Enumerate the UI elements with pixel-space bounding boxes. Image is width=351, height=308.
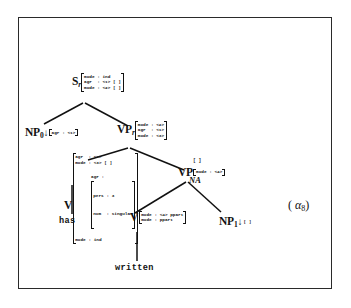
node-np0-label: NP0 (25, 126, 44, 140)
feature-structure-np0: agr : <1> (49, 129, 78, 136)
node-v-has: V agr : <1> mode : <3> [ ] agr : pers : … (64, 153, 138, 244)
feature-structure-v-has-agr: pers : 3 num : singular (91, 181, 135, 229)
node-vp-root: VPr mode : <2> agr : <1> mode : <3> (117, 121, 167, 140)
feature-structure-s-root: mode : ind agr : <1> [ ] mode : <2> [ ] (81, 73, 123, 92)
node-vp-foot: VP mode : <4> (178, 166, 225, 178)
terminal-written: written (115, 263, 154, 273)
node-np0: NP0 ↓ agr : <1> (25, 126, 78, 140)
terminal-has: has (59, 216, 76, 226)
substitution-arrow-icon-np1: ↓ (238, 217, 243, 227)
tree-name-close-paren: ) (305, 198, 309, 212)
substitution-arrow-icon: ↓ (44, 128, 49, 138)
node-np1-label: NP1 (219, 215, 238, 229)
feature-key-agr: agr : (91, 174, 107, 179)
feature-structure-v-written: mode : <4> ppart mode : ppart (139, 211, 186, 224)
node-vp-root-label: VPr (117, 123, 135, 137)
node-v-written-label: V (130, 211, 138, 223)
tree-name-open-paren: ( (288, 198, 292, 212)
null-adjunction-constraint: NA (189, 175, 201, 185)
node-vp-foot-top-feature: [ ] (193, 158, 201, 163)
feature-structure-v-has: agr : <1> mode : <3> [ ] agr : pers : 3 … (73, 153, 138, 244)
node-s-root: Sr mode : ind agr : <1> [ ] mode : <2> [… (72, 73, 124, 92)
node-np1: NP1 ↓ [ ] (219, 215, 251, 229)
feature-row-agr: agr : pers : 3 num : singular (75, 167, 135, 236)
node-v-has-label: V (64, 199, 72, 211)
tree-name-label: ( α8) (288, 198, 309, 213)
feature-structure-np1: [ ] (244, 219, 252, 224)
node-v-written: V mode : <4> ppart mode : ppart (130, 211, 186, 224)
node-s-root-label: Sr (72, 75, 81, 89)
feature-structure-vp-root: mode : <2> agr : <1> mode : <3> (135, 121, 167, 140)
